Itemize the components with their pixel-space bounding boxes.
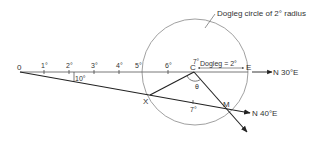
tick-label-5: 5° xyxy=(135,62,142,69)
tick-label-6: 6° xyxy=(165,62,172,69)
circle-note: Dogleg circle of 2° radius xyxy=(217,9,306,18)
tick-label-4: 4° xyxy=(116,62,123,69)
line-c-to-x xyxy=(150,72,194,95)
course-line-n40e xyxy=(20,72,250,113)
dogleg-label: Dogleg = 2° xyxy=(200,60,237,68)
note-leader-line xyxy=(205,14,215,28)
tick-label-2: 2° xyxy=(66,62,73,69)
point-e-label: E xyxy=(246,63,251,72)
point-x-label: X xyxy=(143,97,149,106)
course-label-n30e: N 30°E xyxy=(273,68,298,77)
tick-label-1: 1° xyxy=(41,62,48,69)
tick-label-3: 3° xyxy=(91,62,98,69)
lower-tick-label-7: 7° xyxy=(190,106,197,113)
theta-label: θ xyxy=(195,83,199,90)
point-c-label: C xyxy=(190,63,196,72)
point-m-label: M xyxy=(223,100,230,109)
angle-10-label: 10° xyxy=(75,75,86,82)
dogleg-diagram: Dogleg circle of 2° radius 0 1° 2° 3° 4°… xyxy=(0,0,309,145)
course-label-n40e: N 40°E xyxy=(252,109,277,118)
point-origin-label: 0 xyxy=(17,63,22,72)
